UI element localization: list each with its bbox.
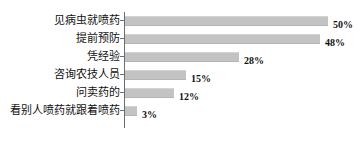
bar-track: 15% bbox=[125, 70, 186, 80]
bar-fill bbox=[125, 16, 328, 26]
bar-fill bbox=[125, 52, 239, 62]
bar-fill bbox=[125, 34, 320, 44]
category-label: 看别人喷药就跟着喷药 bbox=[10, 102, 124, 120]
bar-fill bbox=[125, 106, 137, 116]
bar-chart: 见病虫就喷药 50% 提前预防 48% 凭经验 28% 咨询农技人员 bbox=[0, 0, 361, 141]
category-label: 凭经验 bbox=[87, 48, 124, 66]
axis-tick bbox=[120, 74, 124, 75]
bar-track: 3% bbox=[125, 106, 137, 116]
axis-tick bbox=[120, 110, 124, 111]
category-label: 问卖药的 bbox=[76, 84, 124, 102]
category-label: 见病虫就喷药 bbox=[54, 12, 124, 30]
bar-row: 看别人喷药就跟着喷药 3% bbox=[0, 102, 361, 120]
axis-tick bbox=[120, 38, 124, 39]
bar-fill bbox=[125, 88, 174, 98]
bar-fill bbox=[125, 70, 186, 80]
bar-value-label: 3% bbox=[142, 108, 157, 121]
bar-row: 提前预防 48% bbox=[0, 30, 361, 48]
bar-row: 凭经验 28% bbox=[0, 48, 361, 66]
bar-row: 咨询农技人员 15% bbox=[0, 66, 361, 84]
category-label: 提前预防 bbox=[76, 30, 124, 48]
axis-tick bbox=[120, 56, 124, 57]
axis-tick bbox=[120, 92, 124, 93]
bar-track: 12% bbox=[125, 88, 174, 98]
bar-row: 问卖药的 12% bbox=[0, 84, 361, 102]
bar-row: 见病虫就喷药 50% bbox=[0, 12, 361, 30]
category-label: 咨询农技人员 bbox=[54, 66, 124, 84]
bar-track: 28% bbox=[125, 52, 239, 62]
bar-rows: 见病虫就喷药 50% 提前预防 48% 凭经验 28% 咨询农技人员 bbox=[0, 12, 361, 120]
bar-track: 50% bbox=[125, 16, 328, 26]
axis-tick bbox=[120, 20, 124, 21]
bar-track: 48% bbox=[125, 34, 320, 44]
